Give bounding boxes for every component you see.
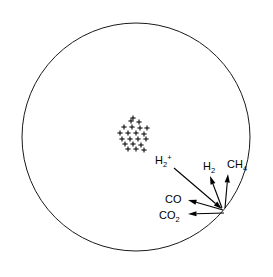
arrow-head-icon [188, 200, 197, 205]
ion-plus-icon [130, 141, 135, 146]
ion-plus-icon [144, 125, 149, 130]
arrow-head-icon [225, 174, 230, 183]
label-co: CO [165, 193, 182, 205]
diagram-canvas: H2+H2CH4COCO2 [0, 0, 273, 277]
label-h2-plus: H2+ [155, 153, 172, 168]
emission-arrows [174, 168, 230, 216]
arrow-head-icon [188, 211, 197, 216]
ion-plus-icon [119, 136, 124, 141]
ion-plus-icon [135, 136, 140, 141]
arrow-shaft [196, 213, 224, 214]
ion-plus-icon [129, 124, 134, 129]
ion-plus-icon [125, 130, 130, 135]
label-ch4: CH4 [227, 158, 247, 173]
ion-plus-icon [117, 130, 122, 135]
arrow-head-icon [210, 176, 215, 185]
species-labels: H2+H2CH4COCO2 [155, 153, 247, 223]
ion-plus-icon [133, 130, 138, 135]
ion-plus-icon [133, 146, 138, 151]
ion-plus-icon [137, 125, 142, 130]
ion-plus-icon [143, 136, 148, 141]
ion-plus-icon [141, 147, 146, 152]
ion-plus-icon [141, 131, 146, 136]
ion-plus-icon [125, 146, 130, 151]
arrow-shaft [225, 182, 227, 208]
label-co2: CO2 [159, 209, 180, 224]
label-h2: H2 [203, 160, 215, 175]
ion-plus-icon [122, 141, 127, 146]
plasma-sphere-outline [22, 23, 250, 251]
ion-plus-icon [121, 124, 126, 129]
ion-plus-icon [136, 119, 141, 124]
ion-plus-icon [138, 142, 143, 147]
figure-root: H2+H2CH4COCO2 [0, 0, 273, 277]
ion-plus-icon [127, 136, 132, 141]
ion-cluster [117, 115, 149, 152]
